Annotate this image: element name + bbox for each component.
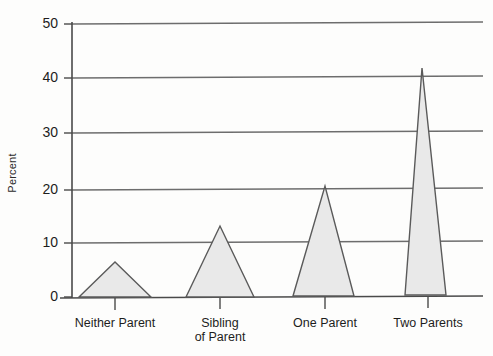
chart-canvas xyxy=(0,0,493,356)
gridline-50 xyxy=(72,22,483,24)
x-category-label-one-parent: One Parent xyxy=(272,316,378,330)
y-tick-label-20: 20 xyxy=(24,181,58,197)
data-marks xyxy=(79,68,446,297)
y-tick-label-50: 50 xyxy=(24,15,58,31)
y-axis-ticks xyxy=(64,24,72,297)
triangle-one-parent xyxy=(293,186,354,296)
x-category-label-neither-parent: Neither Parent xyxy=(55,316,175,330)
triangle-sibling-of-parent xyxy=(186,226,254,297)
x-category-label-two-parents: Two Parents xyxy=(372,316,484,330)
y-tick-label-10: 10 xyxy=(24,234,58,250)
y-tick-label-40: 40 xyxy=(24,69,58,85)
chart-figure: Percent 50 40 30 20 10 0 Neither Parent … xyxy=(0,0,493,356)
y-axis-title: Percent xyxy=(6,38,18,128)
y-tick-label-30: 30 xyxy=(24,124,58,140)
triangle-two-parents xyxy=(405,68,446,295)
triangle-neither-parent xyxy=(79,262,151,297)
y-axis-title-text: Percent xyxy=(6,128,18,218)
y-tick-label-0: 0 xyxy=(24,288,58,304)
x-category-label-sibling-of-parent: Sibling of Parent xyxy=(170,316,270,344)
